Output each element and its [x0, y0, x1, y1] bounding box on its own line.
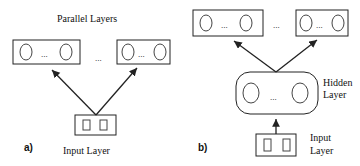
panel-a-arrow-right: [96, 68, 137, 115]
panel-a-title: Parallel Layers: [57, 14, 117, 24]
panel-b-between-dots: ...: [273, 20, 280, 30]
panel-b-arrow-right: [276, 40, 317, 72]
panel-a-between-dots: ...: [95, 53, 102, 63]
panel-b-label: b): [198, 142, 207, 153]
panel-b-hidden-label-2: Layer: [323, 90, 346, 100]
panel-b-input-layer-box: [256, 134, 296, 156]
panel-b-arrow-left: [234, 41, 276, 72]
diagram-canvas: [0, 0, 360, 166]
panel-a-label: a): [24, 142, 33, 153]
panel-b-hidden-layer-box: [236, 72, 318, 114]
panel-a-right-layer-dots: ...: [138, 49, 145, 59]
panel-b-hidden-dots: ...: [270, 92, 277, 102]
panel-b-input-label-2: Layer: [310, 146, 333, 156]
panel-b-left-layer-dots: ...: [221, 20, 228, 30]
panel-a-left-layer-dots: ...: [41, 49, 48, 59]
panel-b-parallel-layer-left: [193, 10, 263, 36]
panel-b-right-layer-dots: ...: [316, 20, 323, 30]
panel-b-input-label-1: Input: [310, 133, 331, 143]
panel-a-input-layer-box: [75, 115, 116, 135]
panel-a-input-label: Input Layer: [63, 146, 110, 156]
panel-a-arrow-left: [52, 70, 96, 115]
panel-b-hidden-label-1: Hidden: [323, 78, 352, 88]
